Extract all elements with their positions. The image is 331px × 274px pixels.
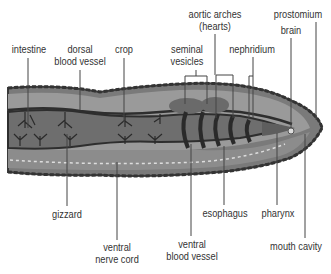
label-ventral-blood-vessel: ventral blood vessel — [163, 238, 221, 262]
label-prostomium: prostomium — [271, 8, 326, 20]
label-line: nerve cord — [89, 253, 145, 265]
label-mouth-cavity: mouth cavity — [266, 240, 326, 252]
label-brain: brain — [275, 24, 307, 36]
label-intestine: intestine — [7, 43, 51, 55]
label-line: blood vessel — [163, 250, 221, 262]
label-line: gizzard — [47, 208, 87, 220]
label-line: vesicles — [168, 55, 207, 67]
label-line: ventral — [163, 238, 221, 250]
label-line: nephridium — [226, 43, 279, 55]
label-nephridium: nephridium — [226, 43, 279, 55]
label-seminal-vesicles: seminal vesicles — [168, 43, 207, 67]
label-line: seminal — [168, 43, 207, 55]
label-pharynx: pharynx — [259, 207, 298, 219]
label-line: aortic arches — [184, 8, 246, 20]
label-line: esophagus — [199, 207, 250, 219]
brain-shape — [288, 128, 294, 134]
label-line: crop — [112, 43, 137, 55]
label-line: brain — [275, 24, 307, 36]
label-line: prostomium — [271, 8, 326, 20]
label-line: dorsal — [54, 43, 107, 55]
label-esophagus: esophagus — [199, 207, 250, 219]
earthworm-diagram: intestine dorsal blood vessel crop semin… — [0, 0, 331, 274]
label-line: intestine — [7, 43, 51, 55]
label-line: mouth cavity — [266, 240, 326, 252]
label-line: pharynx — [259, 207, 298, 219]
label-line: blood vessel — [54, 55, 107, 67]
earthworm-illustration — [0, 0, 331, 274]
label-line: (hearts) — [184, 20, 246, 32]
label-line: ventral — [89, 241, 145, 253]
label-ventral-nerve-cord: ventral nerve cord — [89, 241, 145, 265]
label-crop: crop — [112, 43, 137, 55]
label-aortic-arches: aortic arches (hearts) — [184, 8, 246, 32]
label-dorsal-blood-vessel: dorsal blood vessel — [54, 43, 107, 67]
label-gizzard: gizzard — [47, 208, 87, 220]
